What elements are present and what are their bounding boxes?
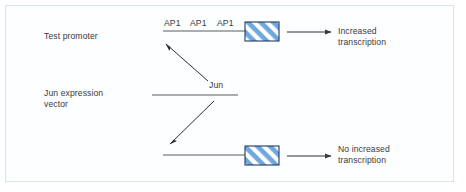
jun-to-bottom-promoter-arrow — [170, 101, 214, 144]
label-no-increased-transcription: No increased transcription — [338, 144, 390, 165]
label-increased-transcription: Increased transcription — [338, 26, 386, 47]
label-ap1-site-1: AP1 — [164, 18, 181, 29]
jun-to-top-promoter-arrow — [166, 44, 208, 81]
label-jun-expression-vector: Jun expression vector — [44, 88, 103, 109]
label-jun: Jun — [209, 80, 223, 91]
label-test-promoter: Test promoter — [44, 31, 98, 42]
bottom-gene-box — [245, 146, 279, 165]
label-ap1-site-2: AP1 — [190, 18, 207, 29]
top-gene-box — [245, 22, 279, 41]
figure-root: Test promoter Jun expression vector AP1 … — [0, 0, 466, 192]
label-ap1-site-3: AP1 — [217, 18, 234, 29]
